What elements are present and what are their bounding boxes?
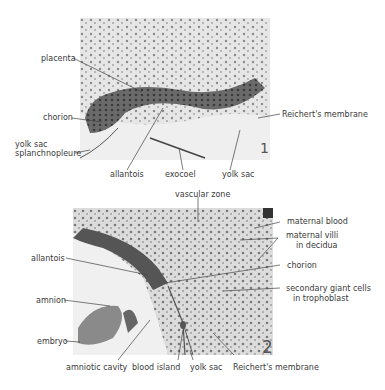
label-chorion-1: chorion	[43, 113, 73, 122]
label-amniotic-cavity-2: amniotic cavity	[66, 363, 127, 372]
label-amnion-2: amnion	[36, 296, 66, 305]
label-allantois-2: allantois	[31, 254, 65, 263]
label-reicherts-membrane-2: Reichert's membrane	[233, 363, 319, 372]
label-secondary-giant-cells-2b: in trophoblast	[293, 294, 349, 303]
label-allantois-1: allantois	[110, 170, 144, 179]
label-maternal-blood-2: maternal blood	[287, 217, 348, 226]
label-secondary-giant-cells-2a: secondary giant cells	[286, 284, 371, 293]
label-exocoel-1: exocoel	[165, 170, 196, 179]
panel-number-1: 1	[260, 140, 269, 156]
label-vascular-zone-2: vascular zone	[175, 190, 230, 199]
label-blood-island-2: blood island	[132, 363, 180, 372]
label-yolk-sac-2: yolk sac	[190, 363, 223, 372]
panel-number-2: 2	[262, 337, 273, 357]
label-yolk-sac-splanchnopleure-1a: yolk sac	[15, 140, 48, 149]
label-placenta-1: placenta	[41, 54, 76, 63]
label-yolk-sac-1: yolk sac	[222, 170, 255, 179]
label-maternal-villi-2b: in decidua	[296, 241, 338, 250]
label-maternal-villi-2a: maternal villi	[286, 231, 338, 240]
label-reicherts-membrane-1: Reichert's membrane	[282, 110, 368, 119]
label-yolk-sac-splanchnopleure-1b: splanchnopleure	[15, 149, 81, 158]
label-embryo-2: embryo	[37, 337, 68, 346]
label-chorion-2: chorion	[287, 261, 317, 270]
